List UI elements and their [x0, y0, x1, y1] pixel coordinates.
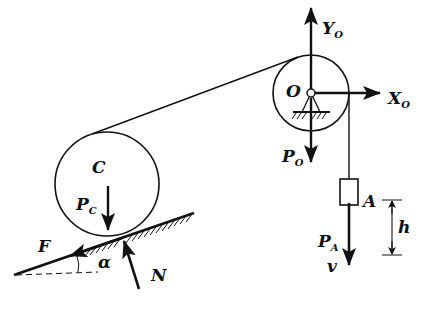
label-n: N — [150, 265, 168, 285]
label-h: h — [398, 217, 410, 237]
label-c: C — [92, 157, 106, 177]
label-xo: XO — [387, 88, 410, 110]
label-pc: PC — [75, 194, 97, 216]
normal-arrow — [124, 241, 139, 289]
block-a — [340, 179, 358, 205]
cord-upper — [92, 57, 298, 134]
label-po: PO — [281, 146, 304, 168]
pin-o-icon — [307, 89, 315, 97]
label-v: v — [327, 256, 338, 276]
label-o: O — [286, 81, 301, 101]
label-pa: PA — [317, 231, 339, 253]
label-alpha: α — [98, 252, 111, 272]
label-f: F — [37, 236, 52, 256]
label-yo: YO — [322, 18, 343, 40]
mechanics-diagram: O YO XO PO A PA v h C PC — [0, 0, 426, 317]
label-a: A — [361, 191, 376, 211]
